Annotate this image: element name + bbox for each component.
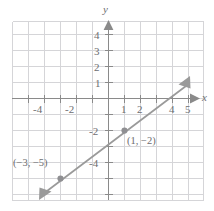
point-label-neg3-neg5: (−3, −5) [13, 158, 48, 169]
point-neg3-neg5 [57, 175, 63, 181]
x-tick-label-1: 1 [121, 104, 127, 115]
y-tick-label-1: 1 [95, 78, 101, 89]
y-tick-label-2: 2 [94, 62, 100, 73]
plotted-line [39, 76, 191, 200]
x-axis-arrowhead [190, 94, 200, 104]
point-1-neg2 [121, 127, 127, 133]
y-tick-label-neg2: -2 [89, 126, 98, 137]
y-axis [104, 20, 114, 200]
x-tick-label-neg4: -4 [33, 104, 42, 115]
y-tick-label-3: 3 [94, 46, 100, 57]
x-tick-label-2: 2 [137, 104, 143, 115]
y-tick-label-4: 4 [94, 30, 100, 41]
x-tick-label-4: 4 [169, 104, 175, 115]
point-label-1-neg2: (1, −2) [127, 136, 156, 147]
coordinate-plane-figure: y x -4 -2 1 2 4 5 4 3 2 1 -2 -4 (1, −2) … [0, 0, 214, 211]
y-tick-label-neg4: -4 [89, 158, 98, 169]
x-tick-label-5: 5 [185, 104, 191, 115]
y-axis-label: y [103, 4, 108, 15]
x-tick-label-neg2: -2 [65, 104, 74, 115]
x-axis-label: x [202, 92, 207, 103]
